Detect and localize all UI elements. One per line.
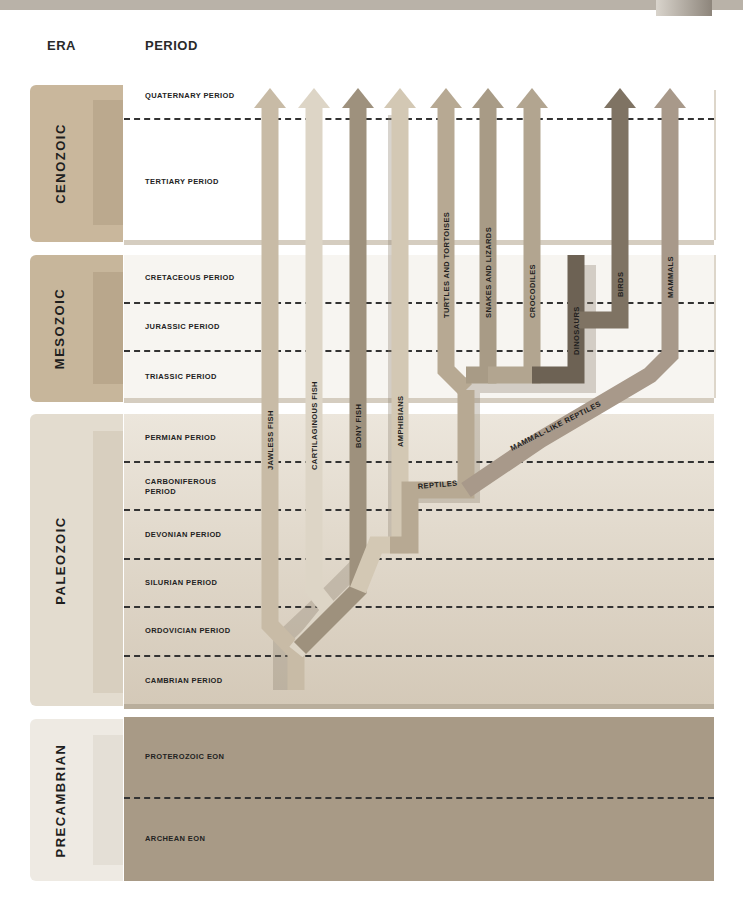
evolution-tree-diagram: JAWLESS FISH CARTILAGINOUS FISH BONY FIS… [0,0,743,909]
label-birds: BIRDS [616,272,625,297]
arrowhead-jawless-fish [254,88,286,108]
arrowhead-snakes [472,88,504,108]
label-jawless-fish: JAWLESS FISH [266,410,275,470]
arrowhead-turtles [430,88,462,108]
arrowhead-bony-fish [342,88,374,108]
arrowhead-mammals [654,88,686,108]
label-dinosaurs: DINOSAURS [572,306,581,355]
label-crocodiles: CROCODILES [528,264,537,318]
arrowhead-birds [604,88,636,108]
label-mammals: MAMMALS [666,256,675,298]
arrowhead-amphibians [384,88,416,108]
label-turtles: TURTLES AND TORTOISES [442,212,451,318]
label-cartilaginous-fish: CARTILAGINOUS FISH [310,381,319,470]
label-bony-fish: BONY FISH [354,404,363,448]
label-amphibians: AMPHIBIANS [396,395,405,447]
arrowhead-cartilaginous-fish [298,88,330,108]
arrowhead-crocodiles [516,88,548,108]
lineage-cartilaginous-fish [296,100,330,652]
label-snakes: SNAKES AND LIZARDS [484,227,493,318]
label-mammal-like-reptiles: MAMMAL-LIKE REPTILES [509,399,603,453]
lineage-jawless-fish [270,100,296,690]
